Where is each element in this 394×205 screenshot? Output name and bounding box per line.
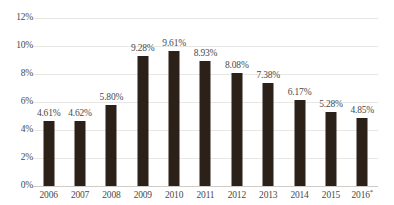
bar-value-label: 7.38%: [256, 70, 280, 80]
bar-slot: 5.28%: [315, 18, 346, 186]
bar-value-label: 8.93%: [194, 48, 218, 58]
bar: [357, 118, 368, 186]
bar-chart: 4.61%4.62%5.80%9.28%9.61%8.93%8.08%7.38%…: [0, 0, 394, 205]
bar: [137, 56, 148, 186]
y-axis-tick-label: 12%: [3, 13, 33, 23]
bar: [294, 100, 305, 186]
y-axis-tick-label: 4%: [3, 125, 33, 135]
bar-value-label: 5.28%: [319, 99, 343, 109]
bar: [263, 83, 274, 186]
bar-slot: 4.61%: [33, 18, 64, 186]
y-axis-tick-label: 2%: [3, 153, 33, 163]
bar: [200, 61, 211, 186]
bar-value-label: 4.85%: [351, 105, 375, 115]
gridline: [33, 186, 378, 187]
y-axis-tick-label: 6%: [3, 97, 33, 107]
bar-value-label: 4.61%: [37, 108, 61, 118]
x-axis-tick-footnote-marker: *: [370, 188, 373, 196]
bar-slot: 5.80%: [96, 18, 127, 186]
bar-slot: 4.62%: [64, 18, 95, 186]
bar-slot: 6.17%: [284, 18, 315, 186]
bar-slot: 8.93%: [190, 18, 221, 186]
bar-slot: 8.08%: [221, 18, 252, 186]
bar: [106, 105, 117, 186]
bar-value-label: 5.80%: [100, 92, 124, 102]
bar: [325, 112, 336, 186]
bar-slot: 9.28%: [127, 18, 158, 186]
y-axis-tick-label: 8%: [3, 69, 33, 79]
bar: [75, 121, 86, 186]
bar-slot: 9.61%: [158, 18, 189, 186]
bar-value-label: 8.08%: [225, 60, 249, 70]
bar-value-label: 9.61%: [162, 38, 186, 48]
bar: [231, 73, 242, 186]
plot-area: 4.61%4.62%5.80%9.28%9.61%8.93%8.08%7.38%…: [33, 18, 378, 186]
x-axis-tick-label: 2016*: [342, 190, 382, 200]
bar-slot: 4.85%: [347, 18, 378, 186]
bar: [43, 121, 54, 186]
y-axis-tick-label: 10%: [3, 41, 33, 51]
bar-value-label: 6.17%: [288, 87, 312, 97]
bars-layer: 4.61%4.62%5.80%9.28%9.61%8.93%8.08%7.38%…: [33, 18, 378, 186]
bar: [169, 51, 180, 186]
bar-value-label: 9.28%: [131, 43, 155, 53]
bar-value-label: 4.62%: [68, 108, 92, 118]
bar-slot: 7.38%: [253, 18, 284, 186]
